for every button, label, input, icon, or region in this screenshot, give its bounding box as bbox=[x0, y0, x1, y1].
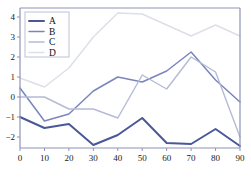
y-tick-labels: 43210−1−2 bbox=[5, 12, 20, 142]
y-tick-label: 0 bbox=[11, 92, 16, 102]
x-tick-labels: 0102030405060708090 bbox=[18, 148, 245, 163]
x-tick-label: 0 bbox=[18, 153, 23, 163]
y-tick-label: 4 bbox=[11, 12, 16, 22]
x-tick-label: 20 bbox=[64, 153, 74, 163]
x-tick-label: 60 bbox=[162, 153, 172, 163]
legend-label-A: A bbox=[49, 16, 56, 26]
legend-label-B: B bbox=[49, 27, 55, 37]
y-tick-label: −1 bbox=[5, 112, 15, 122]
figure-caption bbox=[0, 171, 251, 179]
legend-box bbox=[25, 12, 69, 57]
x-tick-label: 10 bbox=[40, 153, 50, 163]
chart-svg: 0102030405060708090 43210−1−2 ABCD bbox=[0, 0, 251, 179]
x-tick-label: 40 bbox=[113, 153, 123, 163]
x-tick-label: 70 bbox=[187, 153, 197, 163]
line-chart: 0102030405060708090 43210−1−2 ABCD bbox=[0, 0, 251, 179]
x-tick-label: 80 bbox=[211, 153, 221, 163]
x-tick-label: 30 bbox=[89, 153, 99, 163]
x-tick-label: 50 bbox=[138, 153, 148, 163]
legend-label-C: C bbox=[49, 37, 55, 47]
figure: 0102030405060708090 43210−1−2 ABCD bbox=[0, 0, 251, 179]
legend-label-D: D bbox=[49, 48, 56, 58]
y-tick-label: 2 bbox=[11, 52, 16, 62]
y-tick-label: 3 bbox=[11, 32, 16, 42]
x-tick-label: 90 bbox=[236, 153, 246, 163]
y-tick-label: −2 bbox=[5, 132, 15, 142]
y-tick-label: 1 bbox=[11, 72, 16, 82]
chart-legend: ABCD bbox=[25, 12, 69, 58]
